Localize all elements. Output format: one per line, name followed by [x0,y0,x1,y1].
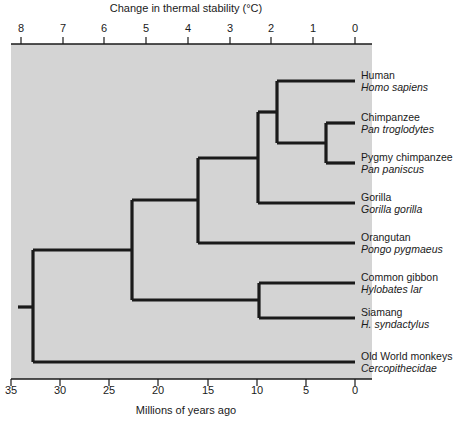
tip-scientific-name: Gorilla gorilla [361,203,422,215]
top-tick-label: 5 [134,22,158,34]
top-tick-label: 0 [343,22,367,34]
tip-common-name: Common gibbon [361,271,438,283]
tip-scientific-name: Pan paniscus [361,163,453,175]
bottom-tick-label: 0 [343,384,367,396]
tip-label-human: HumanHomo sapiens [361,69,428,93]
top-tick-label: 3 [218,22,242,34]
top-tick-label: 7 [51,22,75,34]
bottom-tick-label: 10 [245,384,269,396]
tip-label-gorilla: GorillaGorilla gorilla [361,191,422,215]
tip-common-name: Human [361,69,428,81]
bottom-axis-title: Millions of years ago [0,404,372,416]
tip-common-name: Siamang [361,306,429,318]
top-tick-label: 2 [259,22,283,34]
tip-scientific-name: Hylobates lar [361,283,438,295]
tip-scientific-name: Cercopithecidae [361,362,452,374]
tip-label-orangutan: OrangutanPongo pygmaeus [361,231,443,255]
tip-scientific-name: Homo sapiens [361,81,428,93]
tip-scientific-name: H. syndactylus [361,318,429,330]
top-tick-label: 8 [9,22,33,34]
tip-label-old-world-monkeys: Old World monkeysCercopithecidae [361,350,452,374]
top-tick-label: 1 [301,22,325,34]
tip-scientific-name: Pan troglodytes [361,123,434,135]
tip-label-siamang: SiamangH. syndactylus [361,306,429,330]
top-axis-title: Change in thermal stability (°C) [0,2,372,14]
top-tick-label: 4 [176,22,200,34]
bottom-tick-label: 25 [97,384,121,396]
tip-common-name: Orangutan [361,231,443,243]
bottom-tick-label: 5 [294,384,318,396]
bottom-tick-label: 20 [146,384,170,396]
tip-common-name: Old World monkeys [361,350,452,362]
tip-label-chimpanzee: ChimpanzeePan troglodytes [361,111,434,135]
bottom-tick-label: 15 [196,384,220,396]
tip-label-pygmy-chimpanzee: Pygmy chimpanzeePan paniscus [361,151,453,175]
phylogenetic-tree-figure: Change in thermal stability (°C) Million… [0,0,455,424]
bottom-tick-label: 30 [48,384,72,396]
tip-common-name: Pygmy chimpanzee [361,151,453,163]
bottom-tick-label: 35 [0,384,23,396]
tip-label-common-gibbon: Common gibbonHylobates lar [361,271,438,295]
top-tick-label: 6 [92,22,116,34]
tip-common-name: Chimpanzee [361,111,434,123]
tip-scientific-name: Pongo pygmaeus [361,243,443,255]
plot-background [11,44,372,379]
tip-common-name: Gorilla [361,191,422,203]
